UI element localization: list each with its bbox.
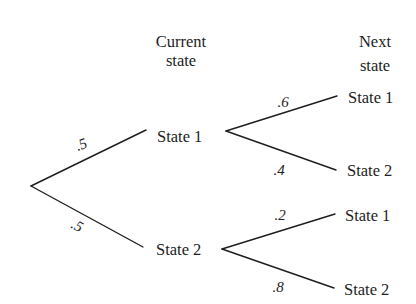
edge-root-to-state2 bbox=[31, 186, 143, 247]
next-state-header-line2: state bbox=[360, 56, 390, 75]
next-state-header-line1: Next bbox=[359, 32, 391, 51]
prob-root-to-state2: .5 bbox=[69, 216, 87, 236]
edge-root-to-state1 bbox=[31, 130, 146, 186]
current-state-1-label: State 1 bbox=[157, 127, 202, 146]
probability-tree-diagram: Current state Next state .5 .5 State 1 S… bbox=[0, 0, 416, 304]
current-state-header-line2: state bbox=[166, 51, 196, 70]
current-state-header-line1: Current bbox=[156, 32, 207, 51]
next-state-1a-label: State 1 bbox=[348, 88, 393, 107]
prob-state2-to-state1: .2 bbox=[274, 207, 286, 223]
next-state-header: Next state bbox=[359, 32, 391, 75]
prob-state1-to-state2: .4 bbox=[273, 162, 285, 178]
current-state-2-label: State 2 bbox=[156, 240, 201, 259]
next-state-1b-label: State 1 bbox=[345, 206, 390, 225]
prob-root-to-state1: .5 bbox=[73, 135, 90, 154]
prob-state1-to-state1: .6 bbox=[277, 94, 289, 110]
next-state-2b-label: State 2 bbox=[344, 280, 389, 299]
prob-state2-to-state2: .8 bbox=[272, 279, 284, 295]
next-state-2a-label: State 2 bbox=[347, 161, 392, 180]
current-state-header: Current state bbox=[156, 32, 207, 70]
